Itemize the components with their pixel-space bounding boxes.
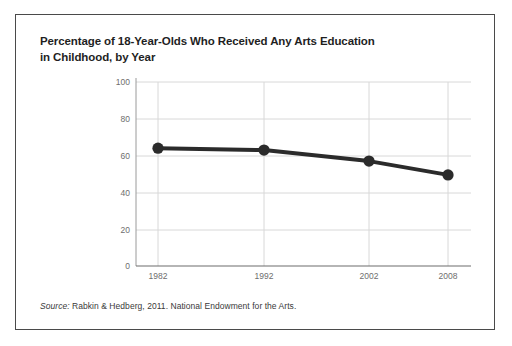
y-tick-label: 0 — [125, 261, 130, 271]
data-series-line — [158, 148, 448, 175]
source-label: Source: — [40, 301, 70, 311]
figure-panel: Percentage of 18-Year-Olds Who Received … — [15, 14, 495, 330]
line-chart-svg: 100 80 60 40 20 0 1982 1992 2002 2008 — [16, 15, 496, 331]
source-citation: Rabkin & Hedberg, 2011. National Endowme… — [70, 301, 297, 311]
plot-area: 100 80 60 40 20 0 1982 1992 2002 2008 — [16, 15, 496, 331]
data-point-marker — [363, 155, 374, 166]
y-tick-label: 20 — [121, 225, 131, 235]
x-gridlines — [158, 82, 448, 266]
data-point-marker — [152, 143, 163, 154]
y-tick-label: 60 — [121, 151, 131, 161]
y-tick-label: 100 — [116, 77, 130, 87]
y-tick-label: 80 — [121, 114, 131, 124]
y-tick-label: 40 — [121, 188, 131, 198]
data-point-marker — [442, 169, 453, 180]
data-point-marker — [258, 144, 269, 155]
x-tick-label: 2008 — [439, 271, 458, 281]
x-tick-label: 1982 — [149, 271, 168, 281]
x-tick-label: 1992 — [255, 271, 274, 281]
x-tick-labels: 1982 1992 2002 2008 — [149, 271, 458, 281]
y-tick-labels: 100 80 60 40 20 0 — [116, 77, 130, 271]
x-tick-label: 2002 — [360, 271, 379, 281]
source-note: Source: Rabkin & Hedberg, 2011. National… — [40, 301, 296, 311]
